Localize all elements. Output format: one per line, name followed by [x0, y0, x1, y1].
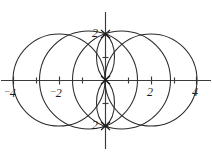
- y-axis-label-2: 2: [92, 27, 98, 39]
- x-axis-label--4: –4: [5, 86, 16, 99]
- y-axis-label--2: 2: [92, 119, 98, 131]
- x-axis-label--2: –2: [51, 86, 62, 99]
- graph-canvas: [0, 0, 212, 157]
- x-axis-label-4: 4: [192, 86, 198, 98]
- x-axis-label-2: 2: [147, 86, 153, 98]
- polar-graph-figure: –4 –2 2 4 2 2: [0, 0, 212, 157]
